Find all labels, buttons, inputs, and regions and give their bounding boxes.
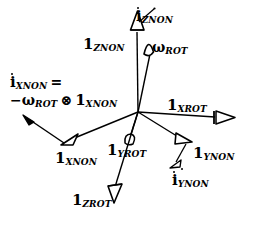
label-one-zrot-sub: ZROT bbox=[82, 199, 111, 209]
label-one-xrot-base: 1 bbox=[167, 96, 177, 114]
label-one-zrot: 1ZROT bbox=[72, 192, 111, 209]
label-i-dot-ynon-base: i bbox=[172, 173, 178, 189]
label-one-xnon-base: 1 bbox=[55, 149, 65, 167]
label-one-znon: 1ZNON bbox=[83, 36, 125, 53]
label-one-zrot-base: 1 bbox=[72, 191, 82, 209]
label-one-yrot-base: 1 bbox=[107, 141, 117, 159]
label-omega-rot: ωROT bbox=[152, 39, 188, 56]
label-one-ynon: 1YNON bbox=[193, 145, 235, 162]
equation-line-2: −ωROT⊗1XNON bbox=[10, 92, 117, 109]
equation-i-dot-xnon: iXNON= −ωROT⊗1XNON bbox=[10, 74, 117, 110]
vector-diagram-figure: iZNON 1ZNON ωROT 1XROT 1XNON 1YROT 1YNON… bbox=[0, 0, 253, 225]
vector-lines-canvas bbox=[0, 0, 253, 225]
label-i-dot-ynon-sub: YNON bbox=[178, 179, 209, 189]
equation-tensor-operator: ⊗ bbox=[60, 92, 72, 108]
equation-i-base: i bbox=[10, 75, 16, 91]
equation-minus-sign: − bbox=[10, 92, 22, 108]
vector-1-znon bbox=[131, 11, 145, 112]
label-one-znon-sub: ZNON bbox=[93, 43, 124, 53]
equation-omega-sub: ROT bbox=[35, 99, 57, 109]
label-one-xrot: 1XROT bbox=[167, 97, 207, 114]
label-one-yrot: 1YROT bbox=[107, 142, 146, 159]
vector-i-dot-ynon bbox=[170, 144, 186, 170]
vector-i-dot-xnon bbox=[23, 115, 64, 143]
equation-unit-base: 1 bbox=[75, 91, 85, 109]
label-one-znon-base: 1 bbox=[83, 35, 93, 53]
label-i-dot-znon-sub: ZNON bbox=[142, 15, 173, 25]
label-one-xnon: 1XNON bbox=[55, 150, 97, 167]
label-one-xrot-sub: XROT bbox=[177, 104, 206, 114]
label-i-dot-ynon: iYNON bbox=[172, 172, 209, 189]
equation-equals: = bbox=[50, 74, 62, 90]
label-i-dot-znon-base: i bbox=[136, 9, 142, 25]
equation-i-sub: XNON bbox=[16, 81, 48, 91]
label-one-ynon-sub: YNON bbox=[203, 152, 234, 162]
label-one-xnon-sub: XNON bbox=[65, 157, 97, 167]
label-omega-rot-sub: ROT bbox=[165, 46, 187, 56]
label-omega-rot-base: ω bbox=[152, 39, 165, 55]
label-one-yrot-sub: YROT bbox=[117, 149, 146, 159]
vector-1-ynon bbox=[138, 112, 192, 144]
equation-unit-sub: XNON bbox=[86, 99, 118, 109]
equation-omega-base: ω bbox=[22, 92, 35, 108]
equation-line-1: iXNON= bbox=[10, 74, 117, 91]
label-i-dot-znon: iZNON bbox=[136, 8, 173, 25]
label-one-ynon-base: 1 bbox=[193, 144, 203, 162]
